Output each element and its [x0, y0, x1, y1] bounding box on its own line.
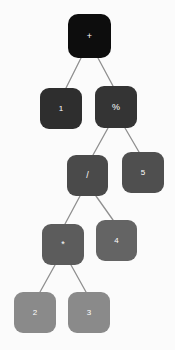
tree-edge — [65, 196, 80, 224]
expression-tree-diagram: +1%/5*423 — [0, 0, 175, 350]
tree-node-label: 5 — [141, 169, 145, 177]
tree-edge — [66, 58, 81, 88]
tree-edge — [93, 128, 108, 155]
tree-node-label: 4 — [114, 237, 118, 245]
tree-node-label: + — [87, 32, 92, 41]
tree-node-n8[interactable]: 3 — [68, 292, 110, 333]
tree-node-n6[interactable]: 4 — [96, 220, 137, 261]
tree-edge — [40, 265, 55, 292]
tree-node-n4[interactable]: 5 — [122, 152, 164, 193]
tree-node-label: 2 — [33, 309, 37, 317]
tree-node-label: * — [61, 240, 65, 249]
tree-node-n1[interactable]: 1 — [40, 88, 82, 129]
tree-node-n3[interactable]: / — [67, 155, 108, 196]
tree-node-n5[interactable]: * — [42, 224, 84, 265]
tree-node-n2[interactable]: % — [95, 86, 137, 128]
tree-node-label: 3 — [87, 309, 91, 317]
tree-node-n7[interactable]: 2 — [14, 292, 56, 333]
tree-node-label: / — [86, 171, 89, 180]
tree-node-label: % — [112, 103, 120, 112]
tree-edge — [125, 128, 139, 152]
tree-node-label: 1 — [59, 105, 63, 113]
tree-edge — [98, 58, 113, 86]
tree-edge — [96, 196, 113, 220]
tree-edge — [71, 265, 86, 292]
tree-node-n0[interactable]: + — [68, 14, 111, 58]
